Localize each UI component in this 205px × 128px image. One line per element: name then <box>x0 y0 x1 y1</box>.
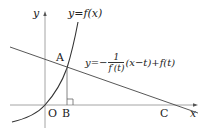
curve-label: y=f(x) <box>68 8 102 19</box>
fraction-denominator: f′(t) <box>108 63 124 73</box>
point-c-label: C <box>160 108 168 119</box>
point-a-label: A <box>56 52 64 63</box>
equation-lhs: y=− <box>85 58 107 68</box>
equation-rhs: (x−t)+f(t) <box>125 58 175 68</box>
normal-line-equation: y=− 1 f′(t) (x−t)+f(t) <box>85 52 175 73</box>
y-axis-arrow-icon <box>43 11 46 16</box>
right-angle-mark <box>67 99 73 105</box>
y-axis-label: y <box>33 8 39 19</box>
point-b-label: B <box>62 108 70 119</box>
x-axis-label: x <box>190 108 196 119</box>
equation-fraction: 1 f′(t) <box>108 52 124 73</box>
fraction-numerator: 1 <box>108 52 124 63</box>
origin-label: O <box>48 108 57 119</box>
